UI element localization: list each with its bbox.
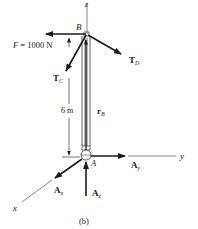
dimension-6m: 6 m <box>61 38 80 157</box>
force-TC: TC <box>53 35 86 84</box>
force-TD-label: TD <box>129 55 140 66</box>
force-Ax-label: Ax <box>54 185 64 196</box>
position-vector-rB: rB <box>86 40 105 150</box>
figure-caption: (b) <box>79 216 89 226</box>
force-Ax: Ax <box>54 159 82 196</box>
dimension-label: 6 m <box>61 106 74 115</box>
z-axis-label: z <box>84 0 89 9</box>
force-TC-label: TC <box>53 73 64 84</box>
force-TD: TD <box>88 35 140 66</box>
free-body-diagram: z y x rB B F = 1000 N <box>0 0 198 229</box>
force-F: F = 1000 N <box>12 34 86 50</box>
x-axis-label: x <box>12 203 17 213</box>
force-Az-label: Az <box>92 188 102 199</box>
force-Ay-label: Ay <box>131 160 141 171</box>
ball-joint <box>81 150 91 160</box>
point-B-label: B <box>76 22 82 32</box>
force-F-label: F = 1000 N <box>12 40 53 50</box>
y-axis-label: y <box>179 151 184 161</box>
z-axis: z <box>84 0 89 34</box>
force-Ay: Ay <box>91 156 141 171</box>
point-A-label: A <box>90 158 97 168</box>
x-axis: x <box>12 180 52 213</box>
rB-label: rB <box>97 106 105 117</box>
